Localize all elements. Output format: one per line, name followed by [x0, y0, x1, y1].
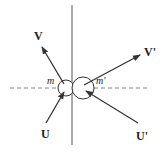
label-m: m	[47, 75, 54, 86]
particle-m-prime	[72, 77, 94, 99]
collision-diagram: V U V' U' m m'	[0, 0, 166, 155]
label-u: U	[41, 127, 50, 141]
label-v: V	[34, 29, 43, 43]
label-v-prime: V'	[144, 45, 156, 59]
label-u-prime: U'	[136, 129, 148, 143]
vector-v-prime	[84, 55, 140, 85]
vector-u-prime	[86, 91, 138, 123]
label-m-prime: m'	[96, 75, 106, 86]
vector-u	[46, 92, 64, 123]
